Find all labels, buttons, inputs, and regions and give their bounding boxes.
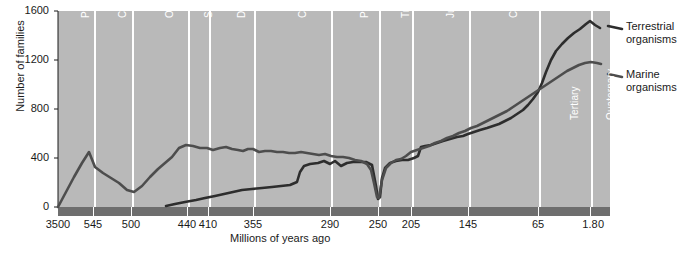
x-tick-label: 290 [308, 219, 352, 230]
period-label-cambrian: Cambrian [117, 0, 128, 18]
x-tick-label: 500 [109, 219, 153, 230]
period-divider [379, 11, 381, 207]
time-axis-tick [253, 207, 254, 216]
time-axis-tick [208, 207, 209, 216]
period-label-quaternary: Quaternary [605, 69, 616, 120]
period-label-tertiary: Tertiary [569, 86, 580, 120]
time-axis-tick [93, 207, 94, 216]
period-label-ordovician: Ordovician [164, 0, 175, 18]
time-axis-tick [590, 207, 591, 216]
legend-item: Terrestrialorganisms [626, 20, 677, 46]
time-axis-tick [131, 207, 132, 216]
period-divider [539, 11, 541, 207]
legend-item-label-line1: Marine [626, 68, 677, 81]
time-axis-tick [411, 207, 412, 216]
period-label-triassic: Triassic [400, 0, 411, 18]
x-tick-label: 65 [516, 219, 560, 230]
legend-item-label-line2: organisms [626, 33, 677, 46]
legend-item-label-line1: Terrestrial [626, 20, 677, 33]
period-label-silurian: Silurian [203, 0, 214, 18]
x-tick-label: 355 [231, 219, 275, 230]
time-axis-bar-group [58, 207, 610, 216]
period-divider [591, 11, 593, 207]
period-divider [94, 11, 96, 207]
time-axis-tick [468, 207, 469, 216]
time-axis-tick [538, 207, 539, 216]
x-tick-label: 145 [446, 219, 490, 230]
period-label-devonian: Devonian [236, 0, 247, 18]
legend-marker [608, 26, 622, 29]
x-tick-label: 205 [389, 219, 433, 230]
period-divider [254, 11, 256, 207]
legend-item-label-line2: organisms [626, 81, 677, 94]
period-divider [331, 11, 333, 207]
time-axis-tick [187, 207, 188, 216]
period-label-carboniferous: Carboniferous [297, 0, 308, 18]
period-divider [209, 11, 211, 207]
period-divider [188, 11, 190, 207]
axis-tick-group [54, 11, 58, 207]
x-tick-label: 0 [579, 219, 623, 230]
period-label-permian: Permian [359, 0, 370, 18]
period-divider [469, 11, 471, 207]
period-divider [412, 11, 414, 207]
period-label-cretaceous: Cretaceous [508, 0, 519, 18]
plot-background-group [58, 11, 610, 207]
period-label-jurassic: Jurassic [445, 0, 456, 18]
x-tick-label: 410 [186, 219, 230, 230]
time-axis-tick [378, 207, 379, 216]
plot-background [58, 11, 610, 207]
time-axis-bar [58, 207, 610, 216]
period-divider [132, 11, 134, 207]
time-axis-tick [330, 207, 331, 216]
legend-item: Marineorganisms [626, 68, 677, 94]
period-label-pre-cambrian: Pre-cambrian [80, 0, 91, 18]
